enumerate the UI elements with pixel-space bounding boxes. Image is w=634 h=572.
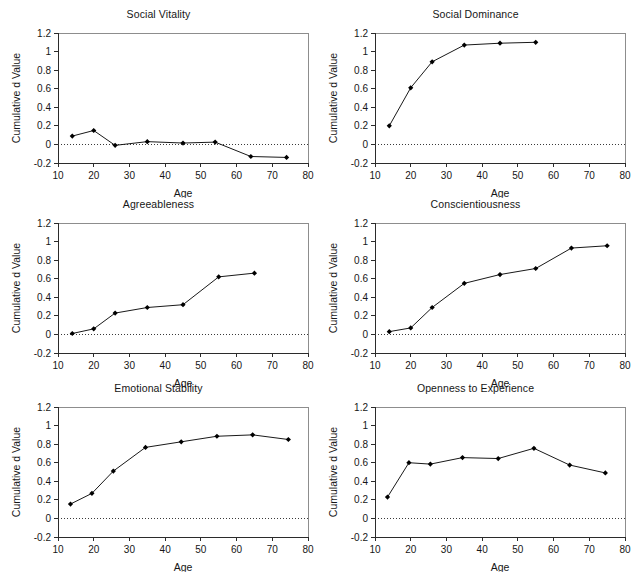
chart-svg-openness-to-experience: -0.200.20.40.60.811.21020304050607080Age… xyxy=(317,382,634,572)
x-tick-label: 40 xyxy=(477,360,489,371)
data-point-marker xyxy=(213,140,218,145)
data-point-marker xyxy=(179,439,184,444)
x-tick-label: 60 xyxy=(548,360,560,371)
panel-conscientiousness: Conscientiousness -0.200.20.40.60.811.21… xyxy=(317,198,634,388)
x-tick-label: 30 xyxy=(441,360,453,371)
data-point-marker xyxy=(531,446,536,451)
data-point-marker xyxy=(462,42,467,47)
y-tick-label: 0.2 xyxy=(37,120,51,131)
y-tick-label: 1.2 xyxy=(37,28,51,39)
data-point-marker xyxy=(70,133,75,138)
data-point-marker xyxy=(533,40,538,45)
x-axis-title: Age xyxy=(491,187,510,198)
x-tick-label: 10 xyxy=(369,544,381,555)
y-axis-title: Cumulative d Value xyxy=(327,427,339,517)
plot-frame xyxy=(58,223,308,353)
y-tick-label: 0.4 xyxy=(354,476,368,487)
y-tick-label: 1.2 xyxy=(354,402,368,413)
y-tick-label: 0.6 xyxy=(37,83,51,94)
data-point-marker xyxy=(68,501,73,506)
y-axis-title: Cumulative d Value xyxy=(10,243,22,333)
y-tick-label: 0 xyxy=(362,139,368,150)
x-tick-label: 80 xyxy=(302,170,314,181)
chart-svg-conscientiousness: -0.200.20.40.60.811.21020304050607080Age… xyxy=(317,198,634,388)
y-tick-label: 0.2 xyxy=(37,310,51,321)
x-axis-title: Age xyxy=(174,561,193,572)
y-tick-label: 1 xyxy=(45,420,51,431)
data-point-marker xyxy=(567,462,572,467)
y-tick-label: 1.2 xyxy=(354,28,368,39)
series-line xyxy=(72,273,254,333)
y-tick-label: 1 xyxy=(45,236,51,247)
y-tick-label: 0.8 xyxy=(37,65,51,76)
data-point-marker xyxy=(406,460,411,465)
data-point-marker xyxy=(252,271,257,276)
x-tick-label: 20 xyxy=(405,544,417,555)
plot-frame xyxy=(375,33,625,163)
y-tick-label: 0 xyxy=(45,513,51,524)
data-point-marker xyxy=(250,432,255,437)
x-axis-title: Age xyxy=(491,561,510,572)
x-tick-label: 70 xyxy=(584,544,596,555)
data-point-marker xyxy=(284,155,289,160)
y-tick-label: 0.4 xyxy=(37,292,51,303)
y-tick-label: -0.2 xyxy=(351,158,369,169)
y-tick-label: -0.2 xyxy=(34,158,52,169)
x-tick-label: 80 xyxy=(302,544,314,555)
panel-openness-to-experience: Openness to Experience -0.200.20.40.60.8… xyxy=(317,382,634,572)
data-point-marker xyxy=(248,154,253,159)
y-tick-label: 1 xyxy=(362,236,368,247)
y-tick-label: 0.8 xyxy=(37,439,51,450)
x-tick-label: 30 xyxy=(441,544,453,555)
x-tick-label: 10 xyxy=(52,170,64,181)
data-point-marker xyxy=(428,462,433,467)
y-tick-label: 0.2 xyxy=(37,494,51,505)
panel-emotional-stability: Emotional Stability -0.200.20.40.60.811.… xyxy=(0,382,317,572)
panel-agreeableness: Agreeableness -0.200.20.40.60.811.210203… xyxy=(0,198,317,388)
y-tick-label: 0.4 xyxy=(37,476,51,487)
x-tick-label: 70 xyxy=(267,544,279,555)
data-point-marker xyxy=(603,470,608,475)
y-tick-label: 1.2 xyxy=(37,218,51,229)
data-point-marker xyxy=(496,456,501,461)
y-tick-label: 0.6 xyxy=(37,457,51,468)
x-tick-label: 60 xyxy=(548,170,560,181)
x-tick-label: 60 xyxy=(231,170,243,181)
plot-frame xyxy=(375,223,625,353)
x-tick-label: 20 xyxy=(88,170,100,181)
x-tick-label: 80 xyxy=(619,544,631,555)
x-tick-label: 70 xyxy=(267,360,279,371)
y-tick-label: 0.8 xyxy=(354,439,368,450)
x-tick-label: 50 xyxy=(512,544,524,555)
panel-social-vitality: Social Vitality -0.200.20.40.60.811.2102… xyxy=(0,8,317,198)
x-tick-label: 80 xyxy=(302,360,314,371)
y-tick-label: 0.6 xyxy=(354,83,368,94)
x-tick-label: 40 xyxy=(160,360,172,371)
y-tick-label: 0.4 xyxy=(354,292,368,303)
data-point-marker xyxy=(145,305,150,310)
data-point-marker xyxy=(497,41,502,46)
x-tick-label: 20 xyxy=(405,360,417,371)
y-tick-label: 1.2 xyxy=(354,218,368,229)
x-tick-label: 60 xyxy=(231,544,243,555)
chart-svg-social-dominance: -0.200.20.40.60.811.21020304050607080Age… xyxy=(317,8,634,198)
data-point-marker xyxy=(385,494,390,499)
y-tick-label: 0 xyxy=(45,139,51,150)
data-point-marker xyxy=(497,272,502,277)
data-point-marker xyxy=(533,266,538,271)
x-tick-label: 10 xyxy=(369,170,381,181)
chart-svg-emotional-stability: -0.200.20.40.60.811.21020304050607080Age… xyxy=(0,382,317,572)
data-point-marker xyxy=(145,139,150,144)
x-tick-label: 50 xyxy=(195,360,207,371)
series-line xyxy=(388,448,606,497)
y-tick-label: 1 xyxy=(362,420,368,431)
y-axis-title: Cumulative d Value xyxy=(10,53,22,143)
data-point-marker xyxy=(569,245,574,250)
x-tick-label: 30 xyxy=(124,360,136,371)
data-point-marker xyxy=(387,123,392,128)
x-tick-label: 50 xyxy=(512,170,524,181)
x-tick-label: 30 xyxy=(124,544,136,555)
x-tick-label: 40 xyxy=(477,170,489,181)
x-tick-label: 60 xyxy=(548,544,560,555)
y-tick-label: 1 xyxy=(45,46,51,57)
